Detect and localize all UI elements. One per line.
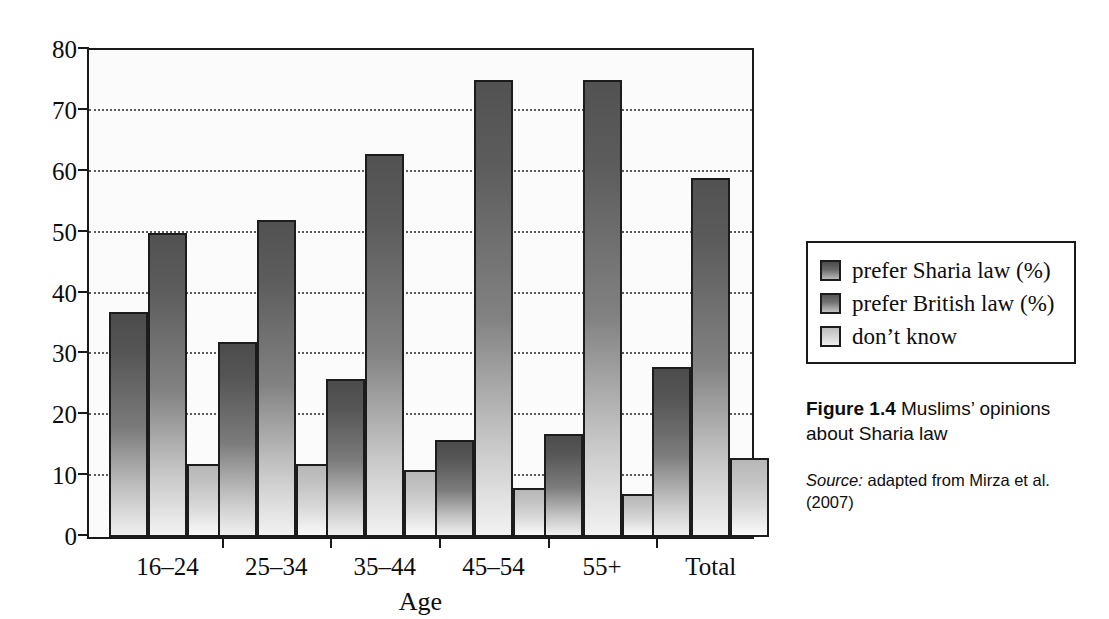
y-tick-label: 0: [65, 523, 90, 551]
x-tick-mark: [439, 537, 441, 548]
bar-sharia[interactable]: [109, 312, 148, 537]
legend-label: prefer British law (%): [852, 292, 1054, 315]
bar-group: [109, 50, 229, 537]
chart-legend: prefer Sharia law (%)prefer British law …: [806, 241, 1076, 364]
legend-swatch-dontknow-icon: [820, 326, 841, 347]
plot-area: 01020304050607080 16–2425–3435–4445–5455…: [87, 48, 754, 539]
x-tick-label: 55+: [583, 553, 622, 581]
x-tick-mark: [222, 537, 224, 548]
y-tick-label: 40: [52, 280, 89, 308]
bar-british[interactable]: [691, 178, 730, 537]
x-tick-label: 16–24: [136, 553, 199, 581]
y-tick-label: 70: [52, 97, 89, 125]
bar-british[interactable]: [257, 220, 296, 537]
y-tick-label: 80: [52, 36, 89, 64]
x-tick-label: 25–34: [245, 553, 308, 581]
bar-british[interactable]: [474, 80, 513, 537]
x-tick-mark: [330, 537, 332, 548]
bar-sharia[interactable]: [218, 342, 257, 537]
bar-group: [652, 50, 772, 537]
bar-sharia[interactable]: [435, 440, 474, 537]
x-axis-title: Age: [399, 587, 442, 617]
bar-british[interactable]: [365, 154, 404, 538]
legend-swatch-sharia-icon: [820, 260, 841, 281]
source-label: Source:: [806, 471, 863, 489]
x-tick-label: Total: [685, 553, 736, 581]
legend-item[interactable]: prefer British law (%): [820, 292, 1062, 315]
bar-group: [435, 50, 555, 537]
bar-sharia[interactable]: [544, 434, 583, 537]
y-tick-label: 20: [52, 401, 89, 429]
figure-container: 01020304050607080 16–2425–3435–4445–5455…: [0, 0, 1109, 619]
x-tick-mark: [656, 537, 658, 548]
bar-dontknow[interactable]: [730, 458, 769, 537]
bar-sharia[interactable]: [326, 379, 365, 537]
bar-group: [326, 50, 446, 537]
caption-source: Source: adapted from Mirza et al. (2007): [806, 469, 1096, 514]
bar-group: [218, 50, 338, 537]
bar-british[interactable]: [583, 80, 622, 537]
legend-label: prefer Sharia law (%): [852, 259, 1051, 282]
legend-swatch-british-icon: [820, 293, 841, 314]
bar-sharia[interactable]: [652, 367, 691, 537]
legend-item[interactable]: don’t know: [820, 325, 1062, 348]
y-tick-label: 60: [52, 158, 89, 186]
caption-title: Figure 1.4 Muslims’ opinions about Shari…: [806, 396, 1096, 447]
bar-chart: 01020304050607080 16–2425–3435–4445–5455…: [0, 0, 790, 619]
x-tick-label: 45–54: [462, 553, 525, 581]
legend-item[interactable]: prefer Sharia law (%): [820, 259, 1062, 282]
y-tick-label: 30: [52, 340, 89, 368]
figure-caption: Figure 1.4 Muslims’ opinions about Shari…: [806, 396, 1096, 530]
bar-british[interactable]: [148, 233, 187, 537]
bar-group: [544, 50, 664, 537]
legend-label: don’t know: [852, 325, 957, 348]
y-tick-label: 50: [52, 219, 89, 247]
x-tick-label: 35–44: [354, 553, 417, 581]
x-tick-mark: [548, 537, 550, 548]
y-tick-label: 10: [52, 462, 89, 490]
figure-number: Figure 1.4: [806, 398, 896, 419]
bars-layer: [89, 50, 752, 537]
